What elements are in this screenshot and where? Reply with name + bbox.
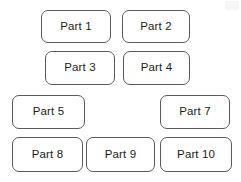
part-box-10[interactable]: Part 10 <box>160 137 232 172</box>
part-box-label: Part 2 <box>140 21 171 33</box>
part-box-label: Part 5 <box>33 106 64 118</box>
part-box-4[interactable]: Part 4 <box>123 51 190 85</box>
part-box-label: Part 4 <box>141 62 172 74</box>
part-box-label: Part 10 <box>177 149 215 161</box>
part-box-label: Part 7 <box>179 106 210 118</box>
part-box-label: Part 1 <box>60 21 91 33</box>
part-box-9[interactable]: Part 9 <box>86 137 155 172</box>
part-box-3[interactable]: Part 3 <box>45 51 115 85</box>
part-box-2[interactable]: Part 2 <box>122 10 190 43</box>
part-box-label: Part 3 <box>64 62 95 74</box>
parts-diagram-canvas: Part 1 Part 2 Part 3 Part 4 Part 5 Part … <box>0 0 241 182</box>
part-box-7[interactable]: Part 7 <box>160 95 230 129</box>
scan-artifact <box>225 1 239 10</box>
part-box-5[interactable]: Part 5 <box>12 95 85 129</box>
part-box-label: Part 8 <box>32 149 63 161</box>
part-box-1[interactable]: Part 1 <box>41 10 111 43</box>
part-box-label: Part 9 <box>105 149 136 161</box>
part-box-8[interactable]: Part 8 <box>12 137 83 172</box>
